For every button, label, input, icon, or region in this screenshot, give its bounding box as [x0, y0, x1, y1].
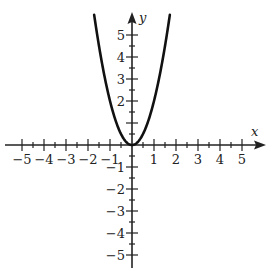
x-tick-label: −5: [12, 152, 31, 167]
y-tick-label: 2: [117, 94, 125, 109]
x-tick-label: 3: [194, 152, 202, 167]
y-tick-label: −1: [106, 160, 125, 175]
y-tick-label: −5: [106, 248, 125, 263]
y-tick-label: −2: [106, 182, 125, 197]
x-tick-label: −3: [56, 152, 75, 167]
x-axis-label: x: [251, 124, 259, 139]
y-tick-label: −4: [106, 226, 125, 241]
y-tick-label: −3: [106, 204, 125, 219]
y-tick-label: 3: [117, 72, 125, 87]
x-tick-label: −4: [34, 152, 53, 167]
y-tick-label: 5: [117, 28, 125, 43]
y-axis-label: y: [138, 10, 147, 25]
x-tick-label: 1: [150, 152, 158, 167]
x-tick-label: 4: [216, 152, 224, 167]
chart-canvas: −5−4−3−2−1123455432−1−2−3−4−5 x y: [0, 0, 267, 275]
x-tick-label: 2: [172, 152, 180, 167]
y-tick-label: 4: [117, 50, 125, 65]
x-tick-label: −2: [78, 152, 97, 167]
x-tick-label: 5: [238, 152, 246, 167]
